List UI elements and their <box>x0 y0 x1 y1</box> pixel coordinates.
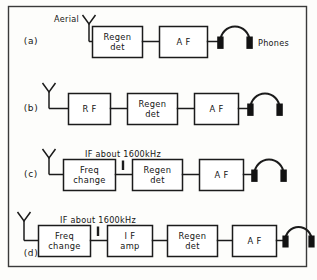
block-a-af-line1: A F <box>176 37 190 47</box>
row-b-label: (b) <box>24 103 39 113</box>
block-d-if-amp: I F amp <box>108 226 153 257</box>
block-a-af: A F <box>160 27 208 58</box>
block-b-regen-det: Regen det <box>128 94 178 125</box>
row-a-phones-label: Phones <box>258 38 289 48</box>
block-d-freq-change-line1: Freq <box>55 231 74 241</box>
row-d-if-note: IF about 1600kHz <box>60 215 136 225</box>
block-b-af-line1: A F <box>209 104 223 114</box>
block-a-regen-det: Regen det <box>93 27 143 58</box>
block-b-regen-det-line1: Regen <box>139 99 167 109</box>
block-c-freq-change: Freq change <box>64 160 116 191</box>
headphones-icon-d <box>282 227 314 248</box>
row-a-aerial-label: Aerial <box>54 14 79 24</box>
block-d-regen-det: Regen det <box>168 226 218 257</box>
block-d-regen-det-line1: Regen <box>179 231 207 241</box>
block-c-freq-change-line2: change <box>73 175 106 185</box>
block-d-regen-det-line2: det <box>185 241 200 251</box>
row-c-if-note: IF about 1600kHz <box>85 149 161 159</box>
headphones-icon-c <box>251 160 287 182</box>
block-b-regen-det-line2: det <box>145 109 160 119</box>
block-diagram-figure: (a) Aerial Regen det A F <box>0 0 317 280</box>
block-b-rf-line1: R F <box>82 104 96 114</box>
antenna-icon-d <box>18 212 39 241</box>
block-c-af-line1: A F <box>214 170 228 180</box>
block-d-freq-change-line2: change <box>48 241 81 251</box>
block-c-regen-det-line2: det <box>150 175 165 185</box>
block-c-regen-det: Regen det <box>133 160 183 191</box>
row-c: (c) Freq change IF about 1600kHz Regen d… <box>24 149 287 191</box>
row-b: (b) R F Regen det A F <box>24 83 283 125</box>
headphones-icon-b <box>247 94 283 116</box>
block-b-af: A F <box>195 94 239 125</box>
block-a-regen-det-line1: Regen <box>104 32 132 42</box>
block-d-freq-change: Freq change <box>39 226 91 257</box>
row-c-label: (c) <box>24 169 38 179</box>
antenna-icon-c <box>43 149 64 175</box>
block-c-freq-change-line1: Freq <box>80 165 99 175</box>
block-d-af: A F <box>233 226 277 257</box>
block-a-regen-det-line2: det <box>110 42 125 52</box>
block-d-if-amp-line1: I F <box>125 231 136 241</box>
row-a: (a) Aerial Regen det A F <box>24 14 289 58</box>
block-b-rf: R F <box>69 94 111 125</box>
antenna-icon-b <box>43 83 69 109</box>
block-c-af: A F <box>200 160 244 191</box>
block-d-if-amp-line2: amp <box>120 241 139 251</box>
headphones-icon-a <box>217 27 253 49</box>
row-d: (d) Freq change IF about 1600kHz I F amp… <box>18 212 315 258</box>
row-d-label: (d) <box>24 248 39 258</box>
block-c-regen-det-line1: Regen <box>144 165 172 175</box>
row-a-label: (a) <box>24 36 38 46</box>
block-d-af-line1: A F <box>247 236 261 246</box>
